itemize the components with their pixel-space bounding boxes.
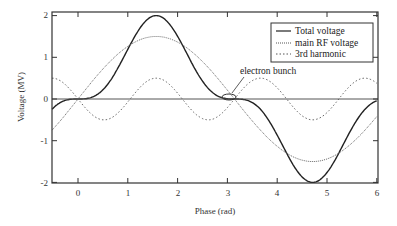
x-tick-1: 1 — [126, 188, 131, 198]
legend-3rd-harmonic: 3rd harmonic — [295, 49, 346, 59]
x-tick-5: 5 — [325, 188, 330, 198]
y-tick-neg1: -1 — [41, 136, 49, 146]
x-tick-labels: 0 1 2 3 4 5 6 — [76, 188, 380, 198]
x-tick-2: 2 — [176, 188, 181, 198]
legend-main-rf: main RF voltage — [295, 38, 358, 48]
y-tick-neg2: -2 — [41, 178, 49, 188]
y-tick-1: 1 — [44, 52, 49, 62]
annotation-pointer — [232, 77, 244, 93]
legend-total: Total voltage — [295, 26, 345, 36]
x-tick-3: 3 — [226, 188, 231, 198]
x-tick-4: 4 — [275, 188, 280, 198]
y-axis-label: Voltage (MV) — [16, 72, 26, 122]
x-tick-0: 0 — [76, 188, 81, 198]
voltage-chart: 0 1 2 3 4 5 6 2 1 0 -1 -2 Phase (rad) Vo… — [0, 0, 397, 226]
x-tick-6: 6 — [375, 188, 380, 198]
electron-bunch-label: electron bunch — [240, 66, 296, 76]
y-tick-2: 2 — [44, 10, 49, 20]
y-tick-0: 0 — [44, 94, 49, 104]
legend: Total voltage main RF voltage 3rd harmon… — [271, 23, 373, 62]
electron-bunch-annotation: electron bunch — [222, 66, 296, 100]
y-tick-labels: 2 1 0 -1 -2 — [41, 10, 49, 188]
x-axis-label: Phase (rad) — [195, 206, 236, 216]
